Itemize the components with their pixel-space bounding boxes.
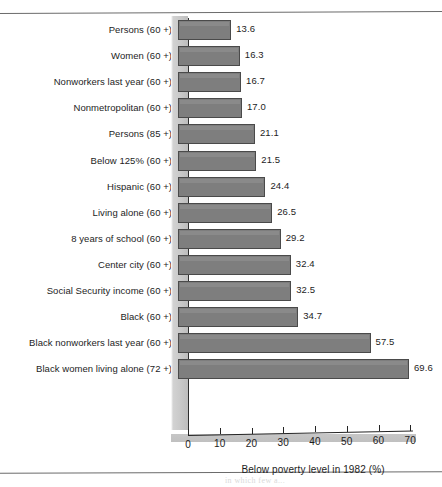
page-bleed-text: in which few a... <box>225 476 440 485</box>
x-axis: 010203040506070 <box>0 14 442 470</box>
x-axis-tick-label: 50 <box>335 436 359 447</box>
x-axis-tick <box>220 428 221 434</box>
x-axis-tick-label: 40 <box>303 436 327 447</box>
x-axis-tick <box>252 428 253 434</box>
x-axis-tick-label: 30 <box>271 437 295 448</box>
x-axis-tick <box>315 426 316 432</box>
x-axis-tick <box>188 429 189 435</box>
x-axis-title: Below poverty level in 1982 (%) <box>188 464 438 476</box>
x-axis-tick <box>283 427 284 433</box>
x-axis-tick <box>410 425 411 431</box>
x-axis-tick-label: 20 <box>240 438 264 449</box>
x-axis-tick-label: 10 <box>208 438 232 449</box>
x-axis-tick-label: 0 <box>176 439 200 450</box>
x-axis-tick-label: 70 <box>398 435 422 446</box>
x-axis-tick <box>347 426 348 432</box>
bar-chart-figure: Persons (60 +)Women (60 +)Nonworkers las… <box>0 14 442 470</box>
x-axis-tick-label: 60 <box>367 435 391 446</box>
x-axis-tick <box>379 425 380 431</box>
